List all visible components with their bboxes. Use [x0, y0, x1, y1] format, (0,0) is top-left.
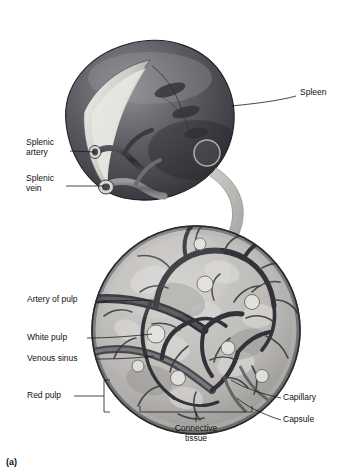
panel-id: (a) — [6, 457, 17, 467]
label-white-pulp: White pulp — [27, 332, 67, 342]
spleen-anatomy-figure: Spleen Splenic artery Splenic vein Arter… — [0, 0, 354, 474]
label-capsule: Capsule — [283, 414, 314, 424]
label-capillary: Capillary — [283, 392, 316, 402]
label-splenic-artery: Splenic artery — [26, 137, 54, 157]
spleen-section-magnified — [84, 220, 300, 434]
label-spleen: Spleen — [300, 87, 326, 97]
label-artery-of-pulp: Artery of pulp — [27, 294, 78, 304]
spleen-illustration — [0, 0, 354, 474]
label-connective-tissue: Connective tissue — [156, 423, 236, 443]
label-venous-sinus: Venous sinus — [27, 353, 78, 363]
label-splenic-vein: Splenic vein — [26, 173, 54, 193]
label-red-pulp: Red pulp — [27, 390, 61, 400]
